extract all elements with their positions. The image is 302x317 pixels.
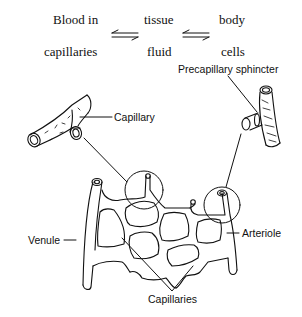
label-capillary: Capillary xyxy=(114,111,155,123)
sphincter-leader-line xyxy=(228,76,257,112)
equilibrium-arrow-icon xyxy=(112,30,138,40)
connector-line-left xyxy=(84,138,127,182)
capillary-network xyxy=(83,174,237,290)
capillary-bed-diagram xyxy=(0,0,302,317)
label-venule: Venule xyxy=(28,234,60,246)
label-precapillary-sphincter: Precapillary sphincter xyxy=(178,63,278,75)
label-capillaries: Capillaries xyxy=(148,293,197,305)
magnify-circle-left xyxy=(125,171,163,209)
magnify-circle-right xyxy=(204,187,240,223)
label-arteriole: Arteriole xyxy=(242,227,281,239)
connector-line-right xyxy=(226,134,241,187)
equilibrium-arrow-icon xyxy=(183,30,209,40)
precapillary-sphincter-illustration xyxy=(242,86,280,147)
capillary-segment-illustration xyxy=(26,95,91,149)
